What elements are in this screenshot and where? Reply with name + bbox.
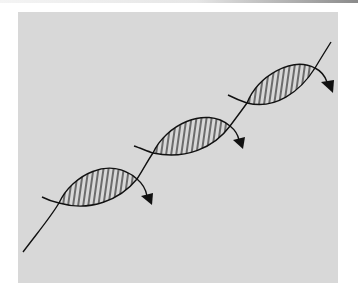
turn-2-arrow-stem — [230, 126, 239, 140]
helix-turn-3 — [228, 64, 334, 104]
turn-3-arrowhead-icon — [321, 80, 334, 93]
turn-2-lens — [153, 117, 230, 155]
turn-2-swing — [134, 146, 153, 153]
turn-1-lens — [59, 168, 137, 206]
helix-diagram — [0, 0, 358, 296]
turn-3-arrow-stem — [315, 68, 327, 82]
helix-turn-1 — [42, 168, 153, 206]
turn-1-arrow-stem — [137, 179, 147, 196]
turn-1-swing — [42, 197, 59, 203]
helix-turn-2 — [134, 117, 245, 155]
turn-3-swing — [228, 95, 247, 103]
turn-2-arrowhead-icon — [233, 137, 245, 149]
turn-3-lens — [247, 64, 315, 104]
turn-1-arrowhead-icon — [141, 193, 153, 205]
